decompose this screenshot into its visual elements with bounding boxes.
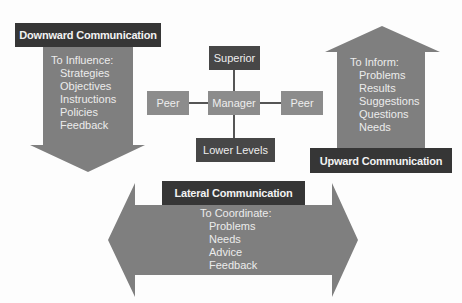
lateral-item: Advice — [200, 246, 272, 259]
upward-item: Questions — [350, 108, 420, 121]
downward-item: Policies — [51, 106, 116, 119]
communication-directions-diagram: Downward Communication To Influence: Str… — [0, 0, 462, 303]
downward-item: Instructions — [51, 93, 116, 106]
manager-node: Manager — [208, 91, 260, 115]
lower-levels-node: Lower Levels — [196, 138, 275, 162]
downward-item: Strategies — [51, 67, 116, 80]
lateral-communication-label: Lateral Communication — [162, 181, 305, 205]
upward-heading: To Inform: — [350, 56, 420, 69]
lateral-item: Needs — [200, 233, 272, 246]
lateral-heading: To Coordinate: — [200, 207, 272, 220]
lateral-text-block: To Coordinate: Problems Needs Advice Fee… — [200, 207, 272, 272]
peer-left-node: Peer — [147, 91, 189, 115]
upward-item: Suggestions — [350, 95, 420, 108]
upward-item: Needs — [350, 121, 420, 134]
peer-right-node: Peer — [281, 91, 323, 115]
upward-text-block: To Inform: Problems Results Suggestions … — [350, 56, 420, 134]
downward-text-block: To Influence: Strategies Objectives Inst… — [51, 54, 116, 132]
superior-node: Superior — [209, 46, 260, 70]
lateral-item: Feedback — [200, 259, 272, 272]
upward-item: Results — [350, 82, 420, 95]
lateral-item: Problems — [200, 220, 272, 233]
downward-item: Objectives — [51, 80, 116, 93]
downward-communication-label: Downward Communication — [15, 23, 161, 47]
downward-heading: To Influence: — [51, 54, 116, 67]
downward-item: Feedback — [51, 119, 116, 132]
upward-item: Problems — [350, 69, 420, 82]
upward-communication-label: Upward Communication — [310, 148, 452, 173]
